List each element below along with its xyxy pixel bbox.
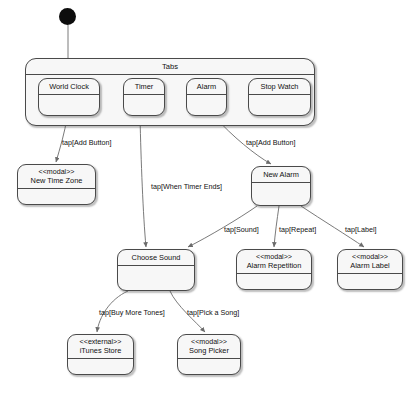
state-label: Alarm Repetition (239, 261, 309, 270)
state-body (252, 183, 310, 205)
state-song-picker[interactable]: <<modal>> Song Picker (177, 334, 241, 375)
state-label: Timer (126, 82, 162, 91)
state-body (18, 189, 95, 204)
state-label: New Alarm (254, 170, 308, 179)
state-label: New Time Zone (20, 176, 93, 185)
transition-label-buy-more-tones: tap[Buy More Tones] (99, 309, 165, 318)
state-label: World Clock (41, 82, 97, 91)
state-alarm[interactable]: Alarm (186, 78, 227, 116)
state-body (249, 95, 310, 115)
state-world-clock[interactable]: World Clock (38, 78, 100, 116)
state-title: <<external>> iTunes Store (68, 335, 133, 359)
state-stop-watch[interactable]: Stop Watch (248, 78, 311, 116)
state-body (237, 274, 311, 289)
state-label: Choose Sound (120, 253, 192, 262)
state-body (187, 95, 226, 115)
state-label: Alarm Label (340, 261, 400, 270)
state-title: <<modal>> Song Picker (178, 335, 240, 359)
state-new-time-zone[interactable]: <<modal>> New Time Zone (17, 164, 96, 205)
state-body (124, 95, 164, 115)
transition-label-when-timer-ends: tap[When Timer Ends] (151, 183, 222, 192)
state-title: <<modal>> Alarm Label (338, 250, 402, 274)
state-body (338, 274, 402, 289)
transition-label-sound: tap[Sound] (224, 226, 259, 235)
edge-timer-to-choose-sound (140, 117, 146, 247)
state-title: <<modal>> New Time Zone (18, 165, 95, 189)
state-stereotype: <<modal>> (180, 338, 238, 346)
state-title: New Alarm (252, 167, 310, 183)
state-alarm-repetition[interactable]: <<modal>> Alarm Repetition (236, 249, 312, 290)
transition-label-pick-a-song: tap[Pick a Song] (187, 309, 239, 318)
state-label: Alarm (189, 82, 224, 91)
state-title: <<modal>> Alarm Repetition (237, 250, 311, 274)
state-title: World Clock (39, 79, 99, 95)
state-label: Stop Watch (251, 82, 308, 91)
composite-state-tabs[interactable]: Tabs World Clock Timer Alarm Stop Watch (25, 58, 315, 126)
initial-state-node (59, 8, 76, 25)
state-stereotype: <<external>> (70, 338, 131, 346)
state-title: Alarm (187, 79, 226, 95)
transition-label-repeat: tap[Repeat] (279, 226, 316, 235)
state-body (68, 359, 133, 374)
state-label: Song Picker (180, 346, 238, 355)
state-timer[interactable]: Timer (123, 78, 165, 116)
state-choose-sound[interactable]: Choose Sound (117, 249, 195, 291)
transition-label-label: tap[Label] (345, 226, 377, 235)
transition-label-add-button-alarm: tap[Add Button] (246, 139, 296, 148)
state-alarm-label[interactable]: <<modal>> Alarm Label (337, 249, 403, 290)
composite-state-title: Tabs (26, 59, 314, 75)
state-itunes-store[interactable]: <<external>> iTunes Store (67, 334, 134, 375)
state-title: Timer (124, 79, 164, 95)
state-diagram-canvas: Tabs World Clock Timer Alarm Stop Watch (0, 0, 413, 393)
state-stereotype: <<modal>> (20, 168, 93, 176)
state-stereotype: <<modal>> (239, 253, 309, 261)
state-new-alarm[interactable]: New Alarm (251, 166, 311, 206)
state-label: iTunes Store (70, 346, 131, 355)
state-stereotype: <<modal>> (340, 253, 400, 261)
transition-label-add-button-world-clock: tap[Add Button] (62, 139, 112, 148)
state-body (178, 359, 240, 374)
state-title: Choose Sound (118, 250, 194, 266)
state-title: Stop Watch (249, 79, 310, 95)
state-body (39, 95, 99, 115)
state-body (118, 266, 194, 290)
